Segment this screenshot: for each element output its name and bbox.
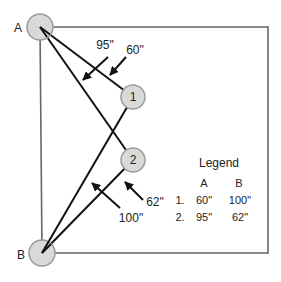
label-62: 62" [146,195,164,209]
line-a-to-2 [40,27,133,160]
legend-row-2-b: 62" [232,211,248,223]
label-100: 100" [119,211,143,225]
triangulation-diagram: 95" 60" 100" 62" 1 2 A B Legend A B 1. 6… [0,0,281,282]
point-1-label: 1 [130,90,137,104]
legend: Legend A B 1. 60" 100" 2. 95" 62" [175,156,251,223]
point-b-label: B [17,248,25,262]
point-a-label: A [14,21,22,35]
legend-row-1-a: 60" [196,194,212,206]
legend-row-1-num: 1. [175,194,184,206]
point-2-label: 2 [130,153,137,167]
legend-row-1-b: 100" [229,194,251,206]
legend-col-b: B [235,177,242,189]
legend-title: Legend [199,156,239,170]
legend-row-2-num: 2. [175,211,184,223]
label-95: 95" [96,38,114,52]
label-60: 60" [126,43,144,57]
arrow-62-icon [125,182,143,200]
legend-row-2-a: 95" [196,211,212,223]
line-a-to-1 [40,27,133,97]
legend-col-a: A [200,177,208,189]
arrow-60-icon [110,57,126,75]
